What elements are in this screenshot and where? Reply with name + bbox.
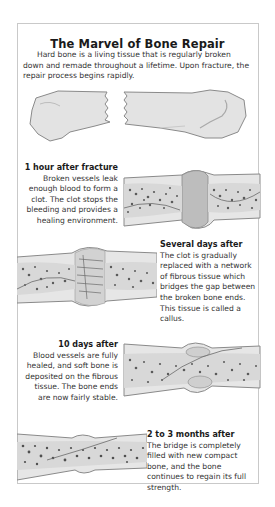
stage-4-body: The bridge is completely filled with new… (147, 441, 259, 494)
intro-paragraph: Hard bone is a living tissue that is reg… (23, 50, 253, 82)
callus-stage-illustration (17, 245, 157, 310)
stage-3-heading: 10 days after (22, 340, 118, 351)
stage-2-body: The clot is gradually replaced with a ne… (160, 251, 256, 325)
soft-bone-stage-illustration (122, 340, 262, 400)
fractured-bone-illustration (0, 86, 275, 166)
stage-2-text: Several days after The clot is gradually… (160, 240, 256, 325)
stage-1-heading: 1 hour after fracture (22, 163, 118, 174)
stage-1-text: 1 hour after fracture Broken vessels lea… (22, 163, 118, 227)
clot-stage-illustration (122, 170, 262, 230)
remodeled-bone-illustration (17, 430, 147, 485)
stage-3-text: 10 days after Blood vessels are fully he… (22, 340, 118, 404)
stage-3-body: Blood vessels are fully healed, and soft… (22, 351, 118, 404)
intro-text: Hard bone is a living tissue that is reg… (23, 50, 249, 80)
stage-4-heading: 2 to 3 months after (147, 430, 259, 441)
stage-1-body: Broken vessels leak enough blood to form… (22, 174, 118, 227)
stage-4-text: 2 to 3 months after The bridge is comple… (147, 430, 259, 494)
diagram-title: The Marvel of Bone Repair (0, 37, 275, 51)
stage-2-heading: Several days after (160, 240, 256, 251)
